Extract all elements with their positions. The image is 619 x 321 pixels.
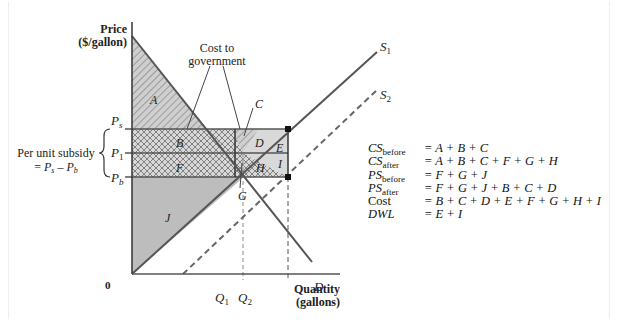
region-g-label: G xyxy=(238,189,247,203)
q2-label: Q2 xyxy=(238,290,252,307)
region-c-label: C xyxy=(255,97,264,111)
region-h-label: H xyxy=(255,161,266,175)
s1-label: S1 xyxy=(380,39,391,56)
subsidy-label-line1: Per unit subsidy xyxy=(17,146,94,160)
region-f-label: F xyxy=(175,161,184,175)
y-axis-unit: ($/gallon) xyxy=(78,35,127,49)
point-ps-q2 xyxy=(285,126,291,132)
ps-label: Ps xyxy=(110,113,123,130)
eq-ps-before: PSbefore= F + G + J xyxy=(368,169,601,182)
demand-label: D xyxy=(313,279,324,294)
region-e-label: E xyxy=(275,141,284,155)
region-b-label: B xyxy=(176,136,184,150)
eq-ps-after: PSafter= F + G + J + B + C + D xyxy=(368,182,601,195)
s2-label: S2 xyxy=(380,87,391,104)
y-axis-title: Price xyxy=(100,22,127,36)
cost-leader-2 xyxy=(223,66,240,129)
region-a-label: A xyxy=(149,93,158,107)
region-j-label: J xyxy=(165,211,171,225)
surplus-equations: CSbefore= A + B + C CSafter= A + B + C +… xyxy=(368,142,601,222)
p1-label: P1 xyxy=(110,145,123,162)
cost-to-gov-line1: Cost to xyxy=(200,41,234,55)
eq-cs-after: CSafter= A + B + C + F + G + H xyxy=(368,155,601,168)
eq-dwl: DWL= E + I xyxy=(368,208,601,221)
x-axis-unit: (gallons) xyxy=(296,295,340,309)
eq-cs-before: CSbefore= A + B + C xyxy=(368,142,601,155)
subsidy-label-line2: = Ps – Pb xyxy=(34,160,78,175)
q1-label: Q1 xyxy=(215,290,229,307)
origin-label: 0 xyxy=(105,279,111,291)
eq-cost: Cost= B + C + D + E + F + G + H + I xyxy=(368,195,601,208)
subsidy-brace xyxy=(99,129,110,177)
cost-to-gov-line2: government xyxy=(188,54,246,68)
pb-label: Pb xyxy=(110,170,124,187)
region-d-label: D xyxy=(254,136,264,150)
point-pb-q2 xyxy=(285,174,291,180)
